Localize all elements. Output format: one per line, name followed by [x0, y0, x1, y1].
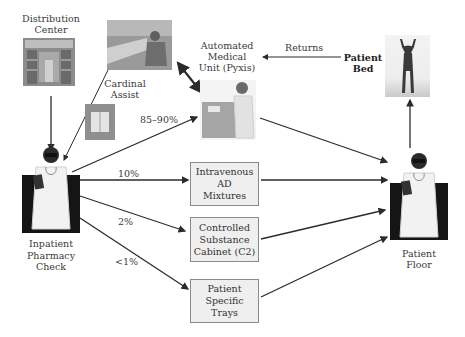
label-line: Unit (Pyxis): [196, 62, 258, 73]
pct-pyxis: 85–90%: [140, 114, 178, 125]
label-line: Center: [16, 24, 86, 35]
pct-c2: 2%: [118, 216, 133, 227]
pct-trays: <1%: [115, 256, 138, 267]
box-line: Substance: [191, 234, 258, 246]
box-line: Mixtures: [191, 190, 258, 202]
medication-package-image: [85, 104, 115, 140]
label-line: Pharmacy: [16, 250, 86, 262]
box-line: Patient: [191, 283, 258, 295]
distribution-center-label: Distribution Center: [16, 13, 86, 35]
label-line: Inpatient: [16, 238, 86, 250]
cardinal-assist-image: [107, 20, 172, 70]
pyxis-unit-image: [200, 80, 256, 140]
label-line: Bed: [342, 63, 384, 74]
arrow-trays-to-floor: [261, 237, 387, 297]
label-line: Medical: [196, 51, 258, 62]
arrow-pyxis-to-floor: [260, 118, 387, 162]
label-line: Assist: [100, 89, 150, 100]
box-line: AD: [191, 178, 258, 190]
box-line: Controlled: [191, 222, 258, 234]
cardinal-assist-label: Cardinal Assist: [100, 78, 150, 100]
box-line: Trays: [191, 307, 258, 319]
label-line: Patient: [342, 52, 384, 63]
label-line: Distribution: [16, 13, 86, 24]
inpatient-pharmacy-label: Inpatient Pharmacy Check: [16, 238, 86, 273]
arrow-c2-to-floor: [261, 210, 385, 239]
patient-trays-box: Patient Specific Trays: [190, 279, 259, 323]
label-line: Floor: [390, 259, 448, 270]
pct-iv: 10%: [118, 168, 139, 179]
label-line: Cardinal: [100, 78, 150, 89]
box-line: Intravenous: [191, 166, 258, 178]
floor-staff-image: [390, 151, 448, 240]
label-line: Patient: [390, 248, 448, 259]
pharmacist-image: [22, 145, 80, 233]
label-line: Automated: [196, 40, 258, 51]
warehouse-image: [23, 38, 75, 86]
box-line: Specific: [191, 295, 258, 307]
pharmacy-distribution-diagram: Distribution Center Cardinal Assist: [0, 0, 465, 337]
label-line: Check: [16, 261, 86, 273]
patient-bed-label: Patient Bed: [342, 52, 384, 74]
arrow-pharmacy-to-trays: [80, 218, 188, 289]
returns-label: Returns: [285, 42, 323, 53]
patient-floor-label: Patient Floor: [390, 248, 448, 270]
box-line: Cabinet (C2): [191, 246, 258, 258]
pyxis-label: Automated Medical Unit (Pyxis): [196, 40, 258, 73]
patient-image: [385, 35, 430, 97]
iv-mixtures-box: Intravenous AD Mixtures: [190, 162, 259, 206]
controlled-substance-box: Controlled Substance Cabinet (C2): [190, 217, 259, 262]
